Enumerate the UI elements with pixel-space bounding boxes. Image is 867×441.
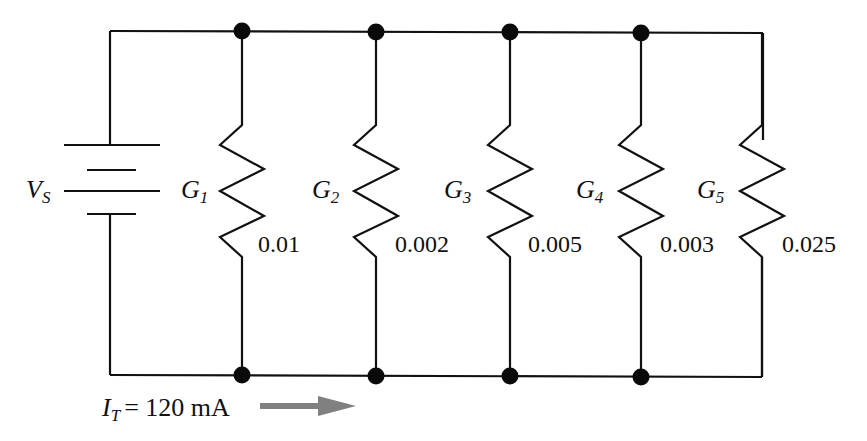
resistor-group <box>220 31 784 377</box>
top-junction-node <box>368 24 385 41</box>
top-junction-node <box>234 23 251 40</box>
bottom-junction-node <box>633 369 650 386</box>
circuit-diagram: VS G1 G2 G3 G4 G5 0.01 0.002 0.005 0.003… <box>0 0 867 441</box>
resistor-value-g2: 0.002 <box>395 231 449 257</box>
bottom-junction-node <box>234 367 251 384</box>
source-label: VS <box>26 175 51 207</box>
resistor-value-g4: 0.003 <box>660 231 714 257</box>
resistor-label-g1: G1 <box>181 175 208 207</box>
top-wire <box>110 31 763 33</box>
resistor-label-g2: G2 <box>312 175 340 207</box>
bottom-junction-node <box>502 368 519 385</box>
battery-icon <box>64 145 160 214</box>
bottom-junction-node <box>368 368 385 385</box>
resistor-g2 <box>354 32 398 376</box>
total-current-label: IT= 120 mA <box>101 393 230 425</box>
resistor-g4 <box>619 33 663 377</box>
resistor-label-g4: G4 <box>576 175 604 207</box>
resistor-label-g3: G3 <box>444 175 471 207</box>
resistor-value-g5: 0.025 <box>782 231 836 257</box>
resistor-value-g1: 0.01 <box>258 231 300 257</box>
top-junction-node <box>502 24 519 41</box>
resistor-g1 <box>220 31 264 375</box>
resistor-label-g5: G5 <box>697 175 724 207</box>
resistor-g3 <box>488 32 532 376</box>
junction-nodes <box>234 23 650 386</box>
resistor-value-g3: 0.005 <box>528 231 582 257</box>
top-junction-node <box>633 25 650 42</box>
resistor-g5 <box>740 33 784 377</box>
bottom-wire <box>110 375 762 377</box>
current-arrow-icon <box>260 396 356 416</box>
